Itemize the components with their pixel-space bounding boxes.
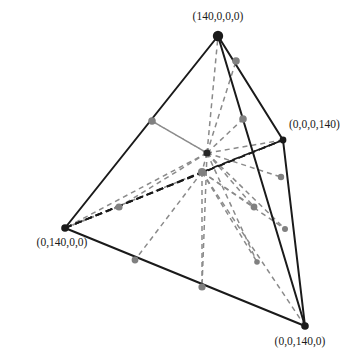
pt-edge-bottom-mid: [198, 283, 205, 290]
pt-interior-low-right: [282, 226, 288, 232]
vertex-group: [61, 31, 309, 330]
v-right-point: [280, 137, 287, 144]
ray-center-to-left-vertex: [65, 153, 207, 228]
edge-right-bottomright: [283, 140, 305, 326]
pt-edge-top-left: [148, 117, 156, 125]
ray-center-to-int-left: [119, 153, 207, 207]
figure-container: (140,0,0,0)(0,0,0,140)(0,140,0,0)(0,0,14…: [0, 0, 356, 362]
v-bottom-right-label: (0,0,140,0): [275, 335, 326, 348]
sub-centroid: [198, 168, 206, 176]
v-right-label: (0,0,0,140): [289, 118, 340, 131]
pt-interior-left: [115, 203, 122, 210]
solid-edge-group: [65, 36, 305, 326]
tetrahedron-diagram: (140,0,0,0)(0,0,0,140)(0,140,0,0)(0,0,14…: [0, 0, 356, 362]
pt-interior-mid-right: [251, 204, 258, 211]
edge-left-bottomright: [65, 228, 305, 326]
centroid: [203, 149, 210, 156]
pt-interior-upper-right: [278, 174, 284, 180]
v-top-label: (140,0,0,0): [193, 10, 244, 23]
ray-edge-pt-tl-to-int-left: [152, 121, 207, 153]
gray-dashed-ray-group: [65, 36, 305, 326]
ray-center-to-int-bottom: [207, 153, 257, 262]
v-left-point: [61, 224, 69, 232]
v-bottom-right-point: [301, 322, 309, 330]
edge-top-right: [218, 36, 283, 140]
ray-center-to-right-vertex: [207, 140, 283, 153]
pt-edge-top-right: [232, 57, 240, 65]
v-top-point: [213, 31, 223, 41]
pt-interior-bottom: [254, 259, 260, 265]
ray-sub-to-int-bottom: [202, 172, 257, 262]
v-left-label: (0,140,0,0): [37, 236, 88, 249]
edge-top-left: [65, 36, 218, 228]
pt-edge-bottom-left: [132, 257, 139, 264]
pt-edge-top-bottomright: [239, 115, 247, 123]
